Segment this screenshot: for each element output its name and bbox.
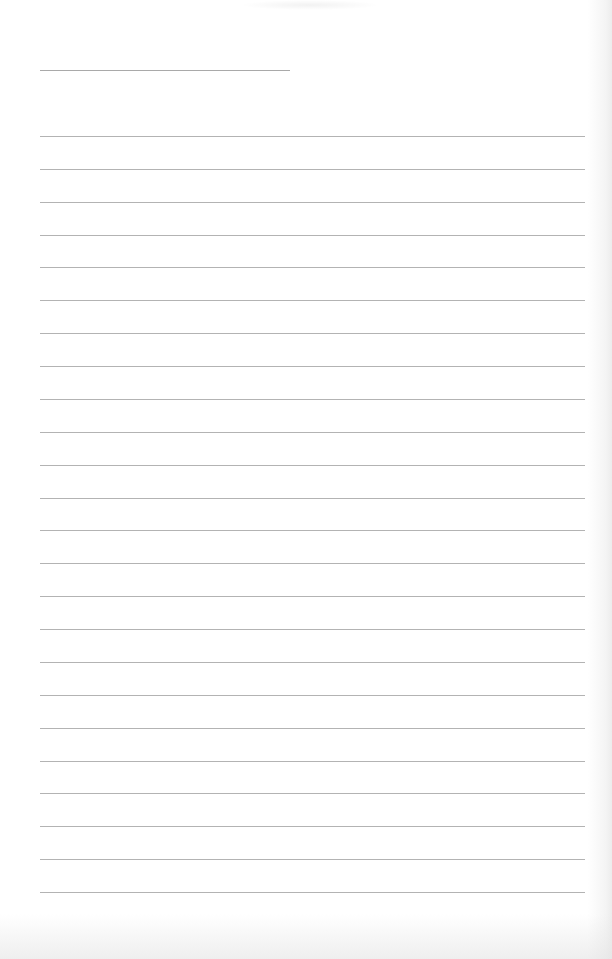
- notebook-page: [0, 0, 612, 959]
- title-line: [40, 70, 290, 71]
- bottom-edge-shadow: [0, 914, 612, 959]
- page-bleed-through: [240, 0, 380, 10]
- ruled-line: [40, 892, 585, 893]
- ruled-line: [40, 465, 585, 466]
- ruled-line: [40, 366, 585, 367]
- ruled-line: [40, 498, 585, 499]
- ruled-line: [40, 235, 585, 236]
- ruled-line: [40, 728, 585, 729]
- ruled-line: [40, 793, 585, 794]
- ruled-line: [40, 596, 585, 597]
- ruled-line: [40, 300, 585, 301]
- ruled-line: [40, 169, 585, 170]
- ruled-line: [40, 859, 585, 860]
- ruled-line: [40, 695, 585, 696]
- ruled-line: [40, 136, 585, 137]
- ruled-line: [40, 432, 585, 433]
- ruled-line: [40, 662, 585, 663]
- ruled-line: [40, 333, 585, 334]
- ruled-line: [40, 563, 585, 564]
- ruled-line: [40, 399, 585, 400]
- ruled-line: [40, 267, 585, 268]
- ruled-line: [40, 202, 585, 203]
- ruled-line: [40, 629, 585, 630]
- ruled-line: [40, 530, 585, 531]
- ruled-line: [40, 761, 585, 762]
- ruled-line: [40, 826, 585, 827]
